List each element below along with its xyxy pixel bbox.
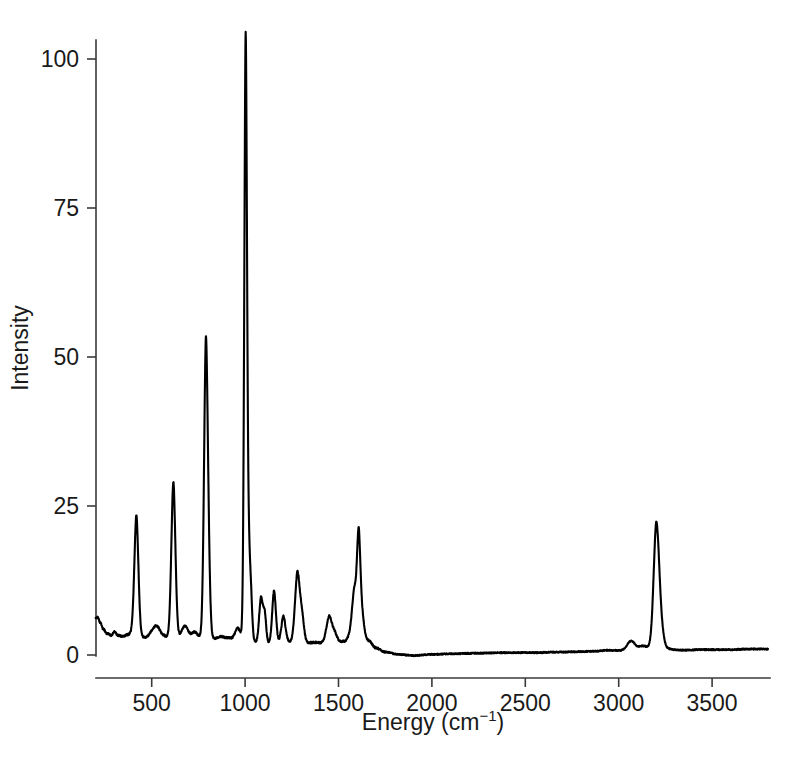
y-tick-label: 0	[66, 642, 79, 668]
y-tick-label: 50	[53, 344, 79, 370]
x-axis-title: Energy (cm−1)	[362, 707, 504, 735]
x-axis-title-superscript: −1	[479, 707, 496, 724]
y-axis-title: Intensity	[7, 305, 33, 391]
x-axis-title-main: Energy (cm	[362, 709, 480, 735]
spectrum-trace	[96, 32, 768, 656]
spectrum-figure: 0255075100 500100015002000250030003500 I…	[0, 0, 795, 759]
x-tick-label: 2500	[500, 690, 551, 716]
x-tick-label: 3500	[687, 690, 738, 716]
x-tick-label: 1000	[220, 690, 271, 716]
x-tick-label: 500	[133, 690, 171, 716]
y-tick-label: 25	[53, 493, 79, 519]
x-axis-title-close: )	[497, 709, 505, 735]
x-tick-label: 1500	[313, 690, 364, 716]
y-tick-label: 100	[41, 46, 79, 72]
y-tick-label: 75	[53, 195, 79, 221]
y-axis-ticks: 0255075100	[41, 46, 96, 668]
x-tick-label: 3000	[593, 690, 644, 716]
spectrum-plot: 0255075100 500100015002000250030003500 I…	[0, 0, 795, 759]
